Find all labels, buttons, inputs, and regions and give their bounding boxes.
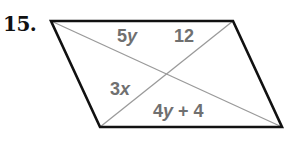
label-5y: 5y [117,26,138,46]
label-3x: 3x [110,79,131,99]
parallelogram-diagram: 5y 12 3x 4y + 4 [0,0,288,145]
label-12: 12 [174,26,194,46]
label-4y-plus-4: 4y + 4 [153,101,204,121]
